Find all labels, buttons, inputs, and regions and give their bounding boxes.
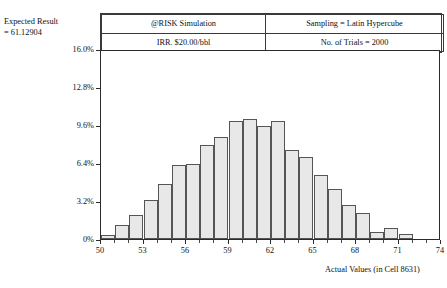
histogram-bar	[144, 200, 158, 239]
cell-simulation-name: @RISK Simulation	[102, 15, 266, 34]
x-axis-tick-label: 56	[172, 247, 198, 255]
cell-trials-count: No. of Trials = 2000	[266, 33, 444, 52]
x-axis-tick-label: 59	[215, 247, 241, 255]
x-axis-minor-tick	[398, 240, 399, 243]
histogram-bar	[314, 175, 328, 239]
x-axis-minor-tick	[327, 240, 328, 243]
cell-sampling-method: Sampling = Latin Hypercube	[266, 15, 444, 34]
histogram-bar	[257, 126, 271, 239]
y-axis-tick-label: 0%	[38, 236, 94, 244]
histogram-bar	[384, 228, 398, 239]
histogram-bar	[328, 189, 342, 239]
y-axis-tick-label: 16.0%	[38, 46, 94, 54]
x-axis-tick-label: 65	[300, 247, 326, 255]
x-axis-minor-tick	[313, 240, 314, 243]
x-axis-minor-tick	[199, 240, 200, 243]
x-axis-minor-tick	[270, 240, 271, 243]
x-axis-tick-mark	[100, 240, 101, 244]
x-axis-tick-label: 62	[257, 247, 283, 255]
histogram-bar	[186, 164, 200, 239]
histogram-bar	[101, 235, 115, 239]
histogram-bar	[285, 150, 299, 239]
histogram-bar	[243, 119, 257, 239]
x-axis-tick-mark	[440, 240, 441, 244]
x-axis-minor-tick	[100, 240, 101, 243]
x-axis-tick-mark	[313, 240, 314, 244]
x-axis-minor-tick	[242, 240, 243, 243]
x-axis-title: Actual Values (in Cell 8631)	[300, 265, 445, 274]
x-axis-tick-mark	[398, 240, 399, 244]
histogram-bars	[101, 51, 439, 239]
x-axis-minor-tick	[185, 240, 186, 243]
histogram-bar	[172, 165, 186, 239]
table-row: @RISK Simulation Sampling = Latin Hyperc…	[102, 15, 444, 34]
expected-result-label: Expected Result	[4, 17, 96, 28]
plot-area	[100, 50, 440, 240]
x-axis-minor-tick	[143, 240, 144, 243]
expected-result-value: = 61.12904	[4, 28, 96, 39]
x-axis-tick-mark	[143, 240, 144, 244]
x-axis-minor-tick	[284, 240, 285, 243]
histogram-bar	[342, 205, 356, 239]
x-axis-tick-label: 50	[87, 247, 113, 255]
x-axis-tick-mark	[185, 240, 186, 244]
cropped-title-text	[96, 0, 206, 9]
x-axis-minor-tick	[369, 240, 370, 243]
x-axis-tick-label: 74	[427, 247, 447, 255]
x-axis-minor-tick	[383, 240, 384, 243]
x-axis-tick-mark	[270, 240, 271, 244]
y-axis-tick-label: 9.6%	[38, 122, 94, 130]
x-axis-tick-mark	[228, 240, 229, 244]
x-axis-minor-tick	[298, 240, 299, 243]
simulation-info-table: @RISK Simulation Sampling = Latin Hyperc…	[100, 13, 442, 53]
histogram-bar	[200, 145, 214, 239]
x-axis-minor-tick	[114, 240, 115, 243]
histogram-bar	[370, 232, 384, 239]
y-axis-tick-mark	[96, 240, 100, 241]
histogram-bar	[115, 225, 129, 239]
x-axis-tick-mark	[355, 240, 356, 244]
expected-result-block: Expected Result = 61.12904	[4, 17, 96, 38]
x-axis-minor-tick	[128, 240, 129, 243]
histogram-bar	[214, 137, 228, 239]
histogram-bar	[158, 184, 172, 239]
x-axis-minor-tick	[426, 240, 427, 243]
x-axis-tick-label: 71	[385, 247, 411, 255]
histogram-bar	[399, 234, 413, 239]
x-axis-minor-tick	[213, 240, 214, 243]
y-axis-tick-label: 3.2%	[38, 198, 94, 206]
y-axis-tick-label: 6.4%	[38, 160, 94, 168]
x-axis-minor-tick	[157, 240, 158, 243]
x-axis-minor-tick	[256, 240, 257, 243]
histogram-bar	[129, 215, 143, 239]
table-row: IRR. $20.00/bbl No. of Trials = 2000	[102, 33, 444, 52]
histogram-bar	[356, 213, 370, 239]
x-axis-minor-tick	[412, 240, 413, 243]
x-axis-minor-tick	[440, 240, 441, 243]
histogram-figure: Expected Result = 61.12904 @RISK Simulat…	[0, 0, 447, 288]
x-axis-minor-tick	[355, 240, 356, 243]
x-axis-minor-tick	[171, 240, 172, 243]
histogram-bar	[271, 121, 285, 239]
histogram-bar	[229, 121, 243, 239]
histogram-bar	[299, 157, 313, 239]
x-axis-tick-label: 68	[342, 247, 368, 255]
x-axis-tick-label: 53	[130, 247, 156, 255]
x-axis-minor-tick	[341, 240, 342, 243]
cell-irr-price: IRR. $20.00/bbl	[102, 33, 266, 52]
y-axis-tick-label: 12.8%	[38, 84, 94, 92]
x-axis-minor-tick	[228, 240, 229, 243]
